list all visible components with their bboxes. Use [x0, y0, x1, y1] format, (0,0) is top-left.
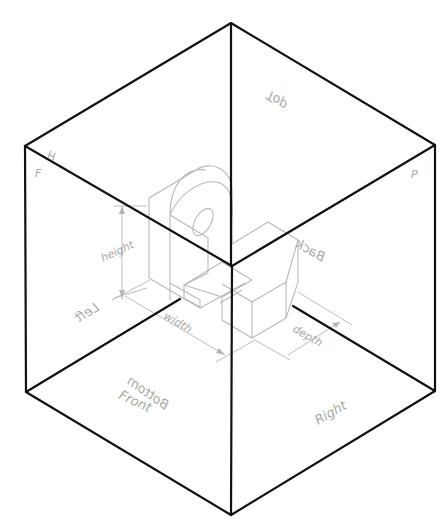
fold-label-h: H — [45, 147, 59, 162]
depth-arrow-icon — [332, 322, 340, 328]
box-edge-top-front-right — [232, 145, 435, 266]
glass-box — [25, 23, 435, 515]
object-upright-front-curve — [170, 182, 232, 218]
dimension-label-height: height — [99, 238, 137, 265]
fold-label-p: P — [411, 168, 418, 181]
width-ext-right — [216, 340, 255, 362]
box-edge-bottom-back-right — [293, 306, 435, 391]
box-edge-front-vertical — [231, 266, 232, 515]
dimension-label-depth: depth — [291, 322, 325, 349]
object-upright-inner — [170, 215, 208, 273]
object-right-bottom — [222, 320, 252, 338]
box-edge-left-vertical — [25, 146, 26, 392]
dimension-label-width: width — [162, 309, 195, 335]
glass-box-diagram: H F P Top Back Left Front Bottom Right h… — [0, 0, 446, 530]
plane-label-left: Left — [72, 300, 102, 326]
fold-label-f: F — [35, 167, 42, 180]
width-ext-left — [112, 280, 150, 300]
box-edge-bottom-back-left — [26, 299, 180, 392]
plane-label-top: Top — [263, 88, 290, 113]
object-upright-back-edge — [149, 166, 232, 244]
depth-ext-front — [255, 340, 290, 360]
width-arrow-icon — [216, 348, 225, 355]
plane-label-right: Right — [312, 397, 350, 428]
height-arrow-top-icon — [119, 206, 125, 214]
depth-ext-back — [298, 292, 352, 325]
box-edge-bottom-front-left — [26, 392, 231, 515]
object-hole — [189, 205, 218, 239]
